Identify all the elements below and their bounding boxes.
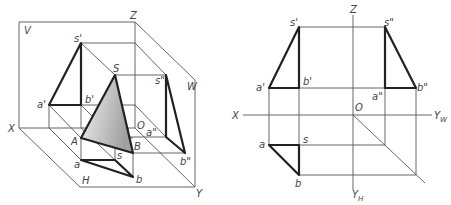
label-v-plane: V — [24, 25, 32, 36]
top-view-triangle — [269, 145, 299, 175]
label-x-axis-right: X — [231, 110, 240, 121]
label-s-double-prime-right: s" — [384, 17, 394, 28]
label-s-prime: s' — [74, 33, 82, 44]
label-b-double-prime: b" — [180, 156, 191, 167]
label-b-prime: b' — [85, 94, 94, 105]
label-b-prime-right: b' — [303, 76, 312, 87]
label-s: s — [117, 150, 122, 161]
side-view-triangle — [385, 27, 416, 88]
label-s-prime-right: s' — [290, 17, 298, 28]
label-a-prime-right: a' — [256, 82, 265, 93]
label-a-double-prime-right: a" — [372, 91, 383, 102]
label-s-right: s — [303, 134, 308, 145]
front-view-triangle — [269, 27, 299, 88]
w-projection-triangle — [166, 75, 185, 153]
label-origin-right: O — [355, 102, 363, 113]
v-projection-triangle — [49, 43, 81, 105]
label-origin: O — [137, 120, 145, 131]
pyramid-face — [81, 75, 133, 153]
label-S: S — [113, 63, 120, 74]
label-a-double-prime: a" — [146, 127, 157, 138]
label-b-right: b — [295, 178, 301, 189]
label-a-prime: a' — [37, 99, 46, 110]
label-z-axis-right: Z — [349, 4, 358, 15]
label-A: A — [70, 136, 78, 147]
label-b-double-prime-right: b" — [417, 82, 428, 93]
label-a-right: a — [259, 139, 265, 150]
label-x-axis: X — [7, 123, 16, 134]
label-b: b — [136, 174, 142, 185]
projector-lines-right — [269, 27, 416, 175]
label-s-double-prime: s" — [155, 75, 165, 86]
45-degree-line — [353, 115, 425, 183]
projection-diagram: V Z W X H Y O s' a' b' S s" a" b" A B a … — [0, 0, 451, 205]
isometric-figure: V Z W X H Y O s' a' b' S s" a" b" A B a … — [7, 10, 203, 199]
label-h-plane: H — [82, 175, 90, 186]
label-a: a — [74, 159, 80, 170]
orthographic-views: Z X YW YH O s' s" a' b' a" b" a s b — [231, 4, 448, 203]
label-w-plane: W — [187, 81, 198, 92]
label-B: B — [134, 141, 141, 152]
label-z-axis: Z — [129, 10, 138, 21]
label-yw-axis: YW — [434, 110, 448, 124]
label-y-axis: Y — [196, 188, 203, 199]
label-yh-axis: YH — [352, 189, 364, 203]
